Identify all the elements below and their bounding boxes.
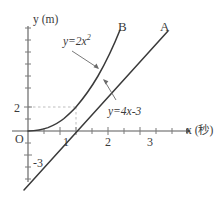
equation-label-parabola: y=2x2 (63, 34, 91, 47)
y-tick-label-2: 2 (14, 102, 20, 114)
x-tick-label-2: 2 (105, 136, 111, 148)
curve-label-a: A (160, 20, 169, 33)
curve-line-a (24, 31, 168, 190)
equation-label-line: y=4x-3 (108, 106, 141, 118)
origin-label: O (15, 133, 24, 145)
y-axis-label: y (m) (33, 14, 58, 26)
x-tick-label-3: 3 (147, 136, 153, 148)
x-axis-label: x (秒) (186, 125, 213, 137)
y-tick-label-neg3: -3 (33, 157, 43, 169)
math-figure-graph: y (m) x (秒) O 1 2 3 2 -3 B A y=2x2 y=4x-… (0, 0, 222, 197)
dashed-guide-line (28, 107, 76, 131)
equation-parabola-base: y=2x (63, 35, 87, 47)
leader-line-parabola (72, 51, 99, 69)
curve-label-b: B (118, 20, 127, 33)
x-tick-label-1: 1 (63, 136, 69, 148)
equation-parabola-exponent: 2 (87, 33, 91, 42)
